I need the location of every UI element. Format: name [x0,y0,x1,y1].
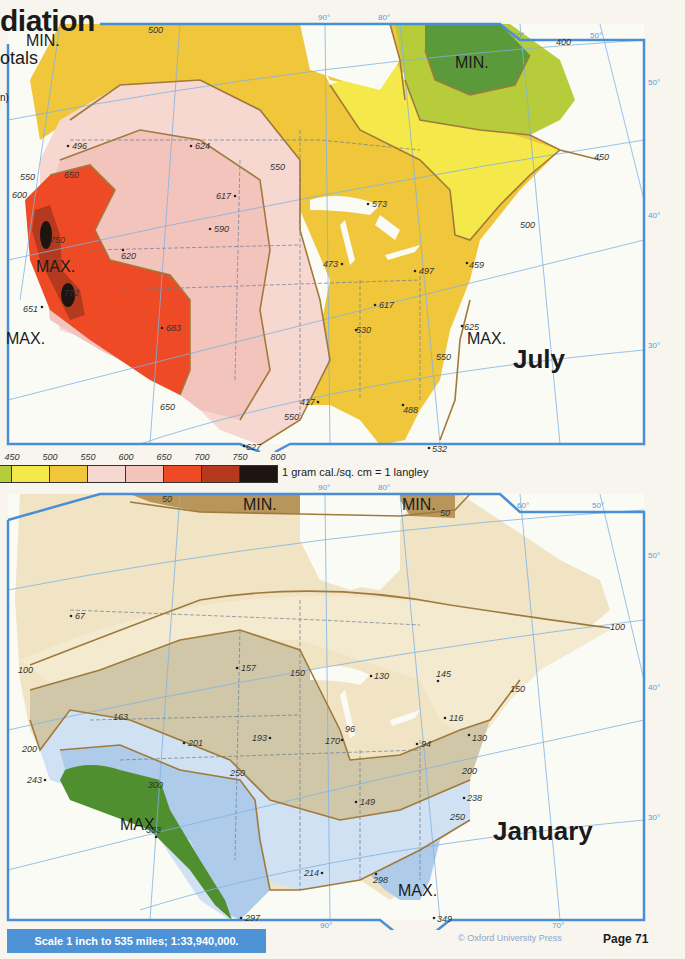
station-value: 94 [421,739,431,749]
legend-tick: 450 [4,452,19,462]
station-value: 497 [419,266,435,276]
degree-label: 50° [648,78,660,87]
station-value: 214 [303,868,319,878]
station-value: 145 [436,669,452,679]
legend-tick: 650 [156,452,171,462]
station-value: 170 [325,736,340,746]
degree-label: 40° [648,683,660,692]
isoline-label: 50 [162,494,172,504]
station-value: 617 [379,300,395,310]
station-value: 163 [113,712,128,722]
degree-label: 30° [648,813,660,822]
station-value: 157 [241,663,257,673]
degree-label: 70° [552,921,564,930]
july-map: 90° 80° 60° 50° 50° 40° 30° 90° 70° 496 … [0,0,685,452]
station-value: 617 [216,191,232,201]
max-label: MAX. [6,330,45,347]
legend-tick: 600 [118,452,133,462]
station-value: 750 [50,235,65,245]
degree-label: 90° [318,483,330,492]
isoline-label: 150 [510,684,525,694]
station-value: 496 [72,141,87,151]
isoline-label: 100 [18,665,33,675]
unit-note: n) [0,92,9,103]
station-value: 590 [214,224,229,234]
isoline-label: 550 [436,352,451,362]
isoline-label: 250 [229,768,245,778]
station-value: 473 [323,259,338,269]
isoline-label: 550 [284,412,299,422]
station-value: 130 [472,733,487,743]
station-value: 620 [121,251,136,261]
isoline-label: 550 [270,162,285,172]
degree-label: 60° [512,31,524,40]
isoline-label: 500 [148,25,163,35]
station-value: 193 [252,733,267,743]
isoline-label: 50 [440,508,450,518]
january-map: 90° 80° 60° 50° 50° 40° 30° 90° 70° 67 1… [0,480,685,930]
station-value: 201 [187,738,203,748]
station-value: 532 [432,444,447,452]
degree-label: 80° [378,483,390,492]
legend-tick: 800 [270,452,285,462]
isoline-label: 600 [12,190,27,200]
legend-tick: 500 [42,452,57,462]
min-label: MIN. [243,496,277,513]
max-label: MAX. [36,258,75,275]
max-label: MAX [120,816,155,833]
legend-tick: 550 [80,452,95,462]
degree-label: 60° [517,501,529,510]
min-label: MIN. [455,54,489,71]
isoline-label: 650 [64,170,79,180]
degree-label: 50° [592,501,604,510]
station-value: 683 [166,323,181,333]
isoline-label: 200 [21,744,37,754]
station-value: 130 [374,671,389,681]
station-value: 243 [26,775,42,785]
station-value: 772 [64,288,79,298]
page-title: diation [0,4,95,38]
isoline-label: 450 [594,152,609,162]
station-value: 298 [372,875,388,885]
page-subtitle: otals [0,48,38,69]
isoline-label: 650 [160,402,175,412]
isoline-label: 550 [20,172,35,182]
station-value: 96 [345,724,355,734]
station-value: 530 [356,325,371,335]
isoline-label: 150 [290,668,305,678]
legend-tick: 750 [232,452,247,462]
station-value: 149 [360,797,375,807]
station-value: 627 [246,442,262,452]
degree-label: 50° [648,551,660,560]
station-value: 349 [437,914,452,924]
station-value: 573 [372,199,387,209]
isoline-label: 300 [148,780,163,790]
legend-unit-note: 1 gram cal./sq. cm = 1 langley [282,466,428,478]
legend-tick: 700 [194,452,209,462]
degree-label: 40° [648,211,660,220]
degree-label: 30° [648,341,660,350]
isoline-label: 100 [610,622,625,632]
isoline-label: 500 [520,220,535,230]
station-value: 67 [75,611,86,621]
station-value: 297 [244,913,261,923]
min-label: MIN. [402,496,436,513]
isoline-label: 200 [461,766,477,776]
degree-label: 90° [320,921,332,930]
station-value: 417 [300,397,316,407]
copyright: © Oxford University Press [458,933,562,943]
degree-label: 50° [590,31,602,40]
station-value: 624 [195,141,210,151]
isoline-label: 400 [556,37,571,47]
degree-label: 90° [318,13,330,22]
station-value: 651 [23,304,38,314]
max-label: MAX. [398,882,437,899]
station-value: 459 [469,260,484,270]
season-label-january: January [493,816,593,846]
max-label: MAX. [467,330,506,347]
page-number: Page 71 [603,932,648,946]
isoline-label: 250 [449,812,465,822]
scale-note: Scale 1 inch to 535 miles; 1:33,940,000. [7,929,266,953]
station-value: 116 [449,713,463,723]
degree-label: 80° [378,13,390,22]
